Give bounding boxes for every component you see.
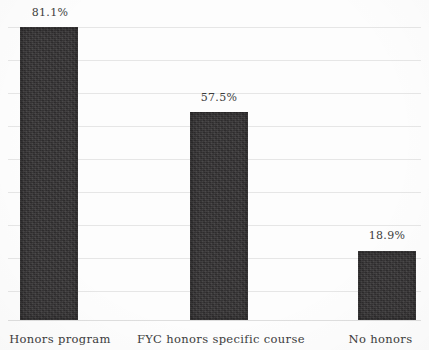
category-label-fyc-honors-specific-course: FYC honors specific course xyxy=(137,332,301,346)
plot-area: 81.1% Honors program 57.5% FYC honors sp… xyxy=(0,0,429,350)
bar-chart: 81.1% Honors program 57.5% FYC honors sp… xyxy=(0,0,429,350)
category-label-no-honors: No honors xyxy=(332,332,429,346)
axis-baseline xyxy=(8,320,421,321)
bar-honors-program[interactable] xyxy=(20,27,78,320)
bar-value-label: 57.5% xyxy=(179,91,259,104)
bar-no-honors[interactable] xyxy=(358,251,416,320)
bar-fyc-honors-specific-course[interactable] xyxy=(190,112,248,320)
bar-value-label: 81.1% xyxy=(10,6,90,19)
bar-value-label: 18.9% xyxy=(347,229,427,242)
category-label-honors-program: Honors program xyxy=(0,332,120,346)
